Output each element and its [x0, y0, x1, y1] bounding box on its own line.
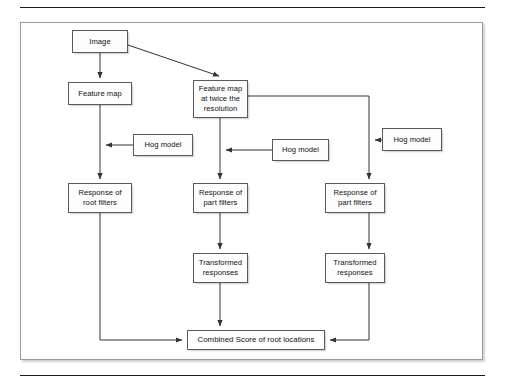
edge-response-root-to-combined-score	[100, 213, 182, 340]
node-hog-model-middle[interactable]: Hog model	[272, 139, 329, 161]
node-transformed-responses-right[interactable]: Transformed responses	[325, 253, 385, 283]
edge-feature-map-2x-to-response-part-right	[248, 96, 369, 179]
node-response-of-part-filters-middle[interactable]: Response of part filters	[193, 183, 248, 213]
node-feature-map-at-twice-resolution[interactable]: Feature map at twice the resolution	[193, 80, 248, 118]
node-feature-map[interactable]: Feature map	[68, 82, 132, 105]
edge-image-to-feature-map-2x	[128, 45, 219, 76]
node-combined-score-of-root-locations[interactable]: Combined Score of root locations	[187, 330, 325, 350]
node-response-of-root-filters[interactable]: Response of root filters	[68, 183, 132, 213]
node-transformed-responses-middle[interactable]: Transformed responses	[193, 253, 248, 283]
node-image[interactable]: Image	[72, 30, 128, 53]
figure-page: Image Feature map Feature map at twice t…	[0, 0, 505, 385]
node-hog-model-left[interactable]: Hog model	[133, 134, 193, 156]
edge-transformed-right-to-combined-score	[330, 283, 369, 340]
node-hog-model-right[interactable]: Hog model	[382, 128, 442, 151]
node-response-of-part-filters-right[interactable]: Response of part filters	[325, 183, 385, 213]
